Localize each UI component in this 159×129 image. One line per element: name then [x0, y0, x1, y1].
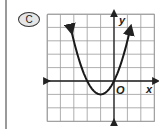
parabola-graph: y x O [0, 0, 159, 129]
origin-label: O [116, 84, 125, 96]
grid-lines [47, 14, 155, 122]
y-axis-label: y [118, 14, 126, 26]
x-axis-label: x [145, 83, 153, 95]
